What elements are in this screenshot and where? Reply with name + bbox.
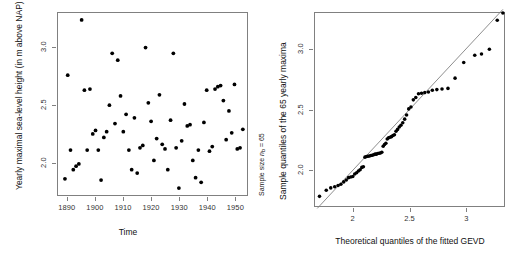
x-tick-label: 3: [464, 214, 468, 223]
qq-points-and-line: [315, 13, 504, 206]
plot-frame-right: [314, 12, 505, 207]
x-tick-mark: [235, 197, 236, 201]
y-tick-mark: [52, 47, 56, 48]
x-axis-title-left: Time: [119, 227, 138, 237]
x-tick-mark: [410, 208, 411, 212]
y-tick-label: 3.0: [39, 39, 48, 53]
y-tick-mark: [309, 49, 313, 50]
y-tick-mark: [52, 105, 56, 106]
x-tick-label: 1950: [227, 203, 244, 212]
panel-yearly-maxima: 1890190019101920193019401950 2.02.53.0 T…: [0, 0, 264, 255]
x-tick-label: 1900: [86, 203, 103, 212]
x-tick-label: 2: [351, 214, 355, 223]
x-tick-mark: [466, 208, 467, 212]
y-tick-label: 2.0: [296, 163, 305, 177]
x-tick-label: 1920: [143, 203, 160, 212]
x-tick-mark: [67, 197, 68, 201]
x-tick-label: 2.5: [404, 214, 415, 223]
x-tick-mark: [95, 197, 96, 201]
x-tick-mark: [207, 197, 208, 201]
y-tick-label: 2.0: [39, 156, 48, 170]
y-tick-mark: [52, 163, 56, 164]
x-tick-mark: [123, 197, 124, 201]
x-tick-label: 1930: [171, 203, 188, 212]
x-axis-title-right: Theoretical quantiles of the fitted GEVD: [335, 236, 484, 246]
x-tick-mark: [179, 197, 180, 201]
y-tick-label: 2.5: [39, 98, 48, 112]
x-tick-label: 1940: [199, 203, 216, 212]
panel-qq-plot: 22.53 2.02.53.0 Theoretical quantiles of…: [264, 0, 527, 255]
x-tick-mark: [151, 197, 152, 201]
scatter-points-left: [58, 13, 247, 195]
plot-frame-left: [57, 12, 248, 196]
y-tick-label: 2.5: [296, 102, 305, 116]
y-tick-mark: [309, 110, 313, 111]
y-tick-label: 3.0: [296, 41, 305, 55]
x-tick-mark: [353, 208, 354, 212]
y-axis-title-left: Yearly maximal sea-level height (in m ab…: [14, 1, 24, 190]
figure-two-panel: 1890190019101920193019401950 2.02.53.0 T…: [0, 0, 527, 255]
x-tick-label: 1890: [58, 203, 75, 212]
y-axis-title-right: Sample quantiles of the 65 yearly maxima: [278, 42, 288, 200]
x-tick-label: 1910: [114, 203, 131, 212]
y-tick-mark: [309, 170, 313, 171]
